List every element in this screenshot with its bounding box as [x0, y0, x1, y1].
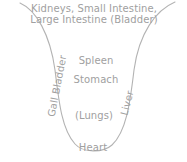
label-heart: Heart [79, 142, 107, 153]
label-title-line-2: Large Intestine (Bladder) [30, 14, 157, 25]
label-spleen: Spleen [79, 55, 114, 66]
label-stomach: Stomach [74, 74, 119, 85]
label-kidneys-intestines: Kidneys, Small Intestine, Large Intestin… [30, 3, 157, 25]
organ-u-shape-diagram: Kidneys, Small Intestine, Large Intestin… [0, 0, 187, 162]
label-lungs: (Lungs) [75, 110, 113, 121]
label-title-line-1: Kidneys, Small Intestine, [30, 3, 157, 14]
